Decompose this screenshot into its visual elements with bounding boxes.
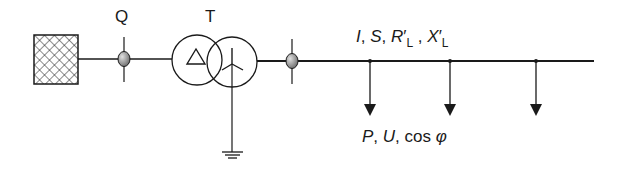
load-3-icon — [530, 59, 542, 116]
voltage-symbol: U — [383, 127, 395, 146]
line-parameters-label: I, S, R′L , X′L — [356, 28, 449, 45]
breaker-2-icon — [286, 39, 298, 84]
breaker-q-icon — [118, 37, 130, 82]
load-2-icon — [444, 59, 456, 116]
phi-symbol: φ — [436, 127, 447, 146]
cos-text: cos — [405, 127, 436, 146]
power-symbol: P — [362, 127, 373, 146]
load-1-icon — [364, 59, 376, 116]
single-line-diagram — [0, 0, 620, 170]
resistance-symbol: R — [391, 27, 403, 46]
load-parameters-label: P, U, cos φ — [362, 128, 447, 145]
delta-winding-icon — [187, 49, 205, 64]
network-source-icon — [34, 35, 78, 84]
reactance-symbol: X — [427, 27, 438, 46]
transformer-icon — [172, 35, 257, 87]
apparent-power-symbol: S — [370, 27, 381, 46]
breaker-q-label: Q — [115, 8, 128, 25]
ground-icon — [222, 64, 243, 158]
transformer-label: T — [205, 8, 215, 25]
